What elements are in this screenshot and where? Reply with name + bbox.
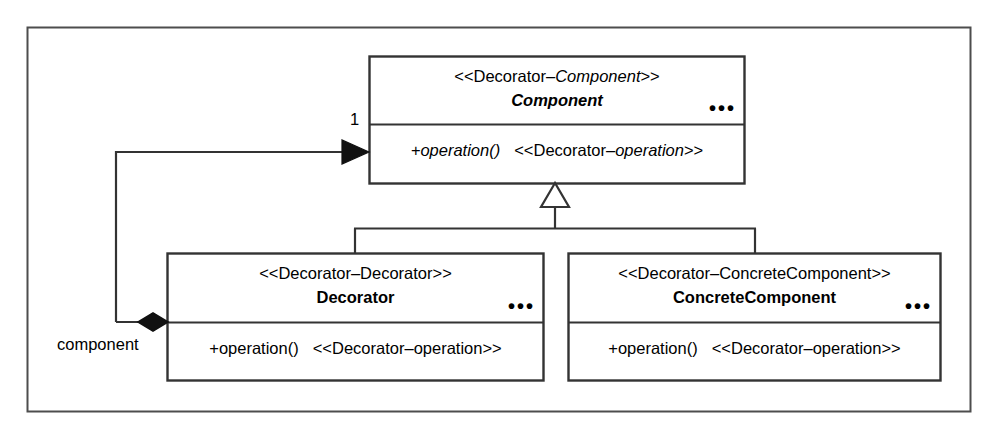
concrete-component-operations-compartment: +operation()<<Decorator–operation>> <box>568 322 941 380</box>
concrete-component-class[interactable]: <<Decorator–ConcreteComponent>> Concrete… <box>568 253 941 381</box>
uml-class-diagram: <<Decorator–Component>> Component ••• +o… <box>0 0 991 429</box>
concrete-component-ellipsis: ••• <box>905 296 932 316</box>
concrete-component-class-name: ConcreteComponent <box>568 289 941 306</box>
component-name-compartment: <<Decorator–Component>> Component ••• <box>369 56 745 124</box>
decorator-stereotype: <<Decorator–Decorator>> <box>167 265 544 282</box>
concrete-component-name-compartment: <<Decorator–ConcreteComponent>> Concrete… <box>568 253 941 322</box>
concrete-component-stereotype: <<Decorator–ConcreteComponent>> <box>568 265 941 282</box>
component-stereotype: <<Decorator–Component>> <box>369 68 745 85</box>
role-label-component: component <box>57 336 139 353</box>
component-class[interactable]: <<Decorator–Component>> Component ••• +o… <box>369 56 745 184</box>
decorator-class-name: Decorator <box>167 289 544 306</box>
multiplicity-label-one: 1 <box>350 111 359 128</box>
component-operations-compartment: +operation()<<Decorator–operation>> <box>369 124 745 183</box>
decorator-class[interactable]: <<Decorator–Decorator>> Decorator ••• +o… <box>167 253 544 381</box>
decorator-operations-compartment: +operation()<<Decorator–operation>> <box>167 322 544 380</box>
decorator-ellipsis: ••• <box>508 296 535 316</box>
component-ellipsis: ••• <box>709 98 736 118</box>
concrete-component-operation-row: +operation()<<Decorator–operation>> <box>568 340 941 357</box>
component-operation-row: +operation()<<Decorator–operation>> <box>369 142 745 159</box>
decorator-operation-row: +operation()<<Decorator–operation>> <box>167 340 544 357</box>
decorator-name-compartment: <<Decorator–Decorator>> Decorator ••• <box>167 253 544 322</box>
component-class-name: Component <box>369 92 745 109</box>
